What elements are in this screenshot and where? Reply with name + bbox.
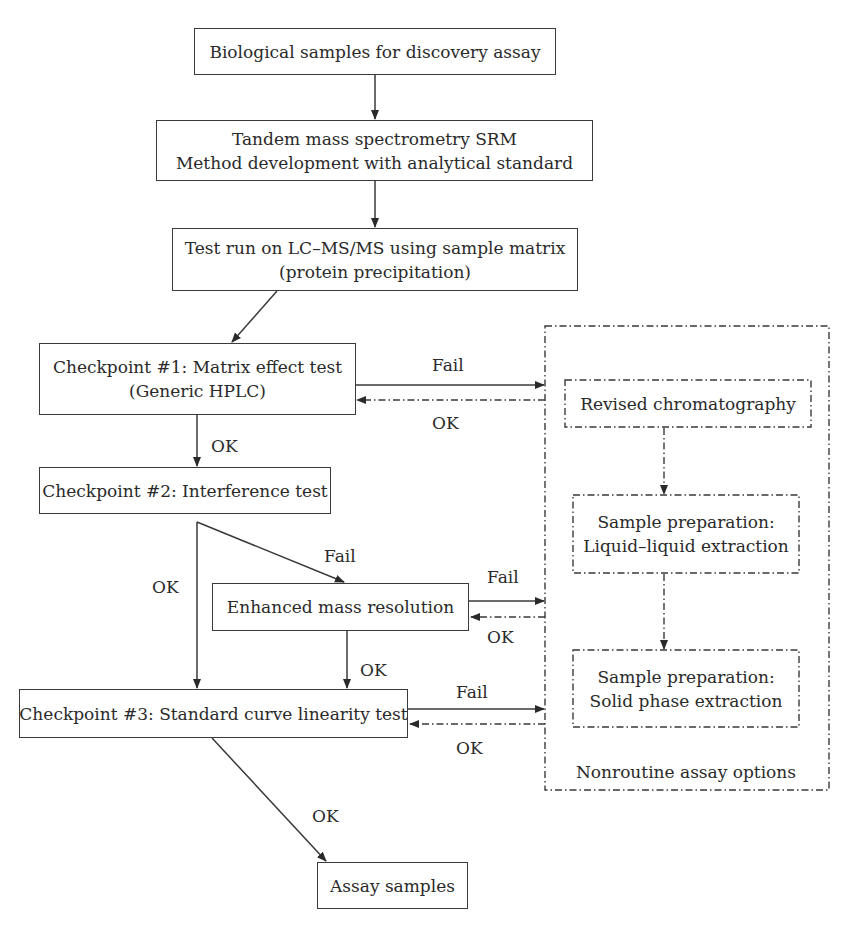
node-text: Method development with analytical stand… [176,151,573,175]
arrow-cp3-ok-down [212,738,326,861]
nonroutine-group-title: Nonroutine assay options [573,762,799,782]
node-liquid-liquid-extraction: Sample preparation: Liquid–liquid extrac… [573,495,799,573]
node-text: Enhanced mass resolution [227,595,454,619]
node-text: Revised chromatography [580,392,796,416]
edge-label-cp3-ok-return: OK [456,738,483,758]
node-text: Liquid–liquid extraction [583,534,789,558]
node-assay-samples: Assay samples [317,862,468,909]
edge-label-cp3-ok-down: OK [312,806,339,826]
edge-label-cp1-ok-down: OK [211,436,238,456]
node-text: Sample preparation: [597,665,774,689]
edge-label-cp3-fail: Fail [456,682,488,702]
edge-label-enh-fail: Fail [487,567,519,587]
node-text: Assay samples [330,874,455,898]
flowchart-canvas: Biological samples for discovery assay T… [0,0,856,930]
node-text: (Generic HPLC) [129,379,266,403]
edge-label-cp1-fail: Fail [432,355,464,375]
node-text: Solid phase extraction [590,689,783,713]
node-checkpoint-2: Checkpoint #2: Interference test [39,467,331,514]
arrow-cp2-fail [197,522,344,582]
node-biological-samples: Biological samples for discovery assay [194,28,556,75]
node-text: Test run on LC–MS/MS using sample matrix [185,236,565,260]
edge-label-enh-ok-down: OK [360,660,387,680]
edge-label-cp2-fail: Fail [324,546,356,566]
node-text: Tandem mass spectrometry SRM [232,127,517,151]
node-text: Checkpoint #2: Interference test [42,479,327,503]
node-text: Biological samples for discovery assay [209,40,540,64]
node-text: (protein precipitation) [279,260,471,284]
node-enhanced-mass-resolution: Enhanced mass resolution [212,583,469,631]
node-text: Sample preparation: [597,510,774,534]
node-revised-chromatography: Revised chromatography [565,380,811,427]
node-tandem-ms: Tandem mass spectrometry SRM Method deve… [156,120,593,181]
edge-label-cp2-ok: OK [152,577,179,597]
node-checkpoint-3: Checkpoint #3: Standard curve linearity … [19,689,408,738]
node-text: Checkpoint #3: Standard curve linearity … [19,702,407,726]
edge-label-cp1-ok-return: OK [432,413,459,433]
arrow-testrun-to-cp1 [232,291,277,342]
node-checkpoint-1: Checkpoint #1: Matrix effect test (Gener… [39,343,356,415]
edge-label-enh-ok-return: OK [487,627,514,647]
node-test-run: Test run on LC–MS/MS using sample matrix… [172,228,578,291]
node-text: Checkpoint #1: Matrix effect test [53,355,342,379]
node-solid-phase-extraction: Sample preparation: Solid phase extracti… [573,650,799,727]
